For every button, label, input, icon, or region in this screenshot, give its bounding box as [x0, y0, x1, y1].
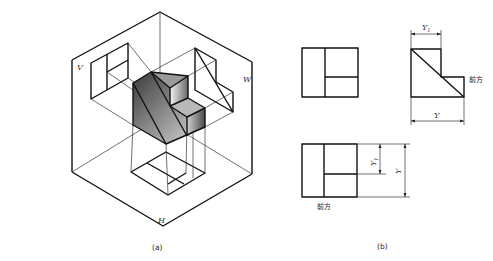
plane-label-w: W	[243, 75, 252, 84]
top-dim-y1: Y1	[369, 158, 379, 166]
caption-a: (a)	[152, 243, 163, 252]
front-view	[302, 48, 358, 97]
side-dim-y1: Y1	[422, 23, 430, 33]
side-front-label: 前方	[469, 75, 483, 84]
three-view-projection-figure: V W H (a) Y1 Y 前方 Y1 Y	[0, 0, 493, 261]
top-front-label: 前方	[317, 202, 331, 211]
central-solid	[133, 72, 205, 144]
plane-label-v: V	[77, 63, 84, 72]
side-dim-y: Y	[434, 111, 440, 120]
plane-label-h: H	[157, 216, 166, 225]
top-dim-y: Y	[394, 168, 403, 174]
caption-b: (b)	[377, 242, 388, 251]
